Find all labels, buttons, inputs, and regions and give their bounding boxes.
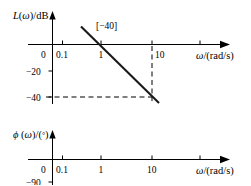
phase-plot-group: ϕ (ω)/(°) ω/(rad/s) 0 0.1 1 10 −90 (13, 129, 234, 186)
magnitude-xtick-label-2: 10 (155, 50, 165, 60)
bode-plot-figure: L(ω)/dB ω/(rad/s) 0 0.1 1 10 −20 −40 [−4… (0, 0, 251, 185)
magnitude-y-axis-label: L(ω)/dB (12, 10, 48, 22)
phase-xtick-label-0: 0.1 (56, 165, 68, 175)
magnitude-origin-label: 0 (41, 50, 46, 60)
magnitude-x-axis-label: ω/(rad/s) (196, 50, 234, 62)
bode-plot-canvas: L(ω)/dB ω/(rad/s) 0 0.1 1 10 −20 −40 [−4… (0, 0, 251, 185)
magnitude-xtick-label-1: 1 (99, 50, 104, 60)
magnitude-ytick-label-1: −40 (26, 93, 41, 103)
phase-y-axis-label: ϕ (ω)/(°) (13, 129, 49, 141)
phase-x-axis-label: ω/(rad/s) (196, 165, 234, 177)
phase-xtick-label-2: 10 (147, 165, 157, 175)
magnitude-x-ticks (63, 41, 201, 45)
phase-y-axis (49, 130, 55, 185)
magnitude-y-ticks (49, 71, 53, 97)
magnitude-plot-group: L(ω)/dB ω/(rad/s) 0 0.1 1 10 −20 −40 [−4… (12, 10, 234, 105)
phase-x-ticks (63, 156, 201, 160)
phase-origin-label: 0 (41, 165, 46, 175)
magnitude-asymptote-line (81, 27, 159, 104)
magnitude-y-axis (49, 11, 55, 104)
slope-annotation-label: [−40] (96, 21, 117, 31)
phase-xtick-label-1: 1 (99, 165, 104, 175)
magnitude-ytick-label-0: −20 (26, 67, 41, 77)
phase-ytick-label-0: −90 (26, 178, 41, 185)
magnitude-xtick-label-0: 0.1 (56, 50, 68, 60)
